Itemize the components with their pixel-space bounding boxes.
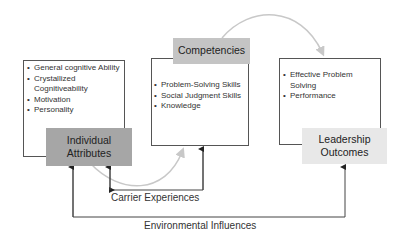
competencies-title: Competencies — [173, 38, 250, 64]
outcomes-item: Effective Problem Solving — [283, 70, 378, 91]
outcomes-list: Effective Problem Solving Performance — [283, 70, 378, 102]
outcomes-item: Performance — [283, 91, 378, 102]
carrier-experiences-label: Carrier Experiences — [111, 192, 199, 203]
environmental-influences-label: Environmental Influences — [144, 220, 256, 231]
attributes-item: Motivation — [27, 95, 122, 106]
attributes-title: Individual Attributes — [46, 128, 132, 166]
competencies-item: Social Judgment Skills — [154, 91, 254, 102]
attributes-list: General cognitive Ability Crystallized C… — [27, 63, 122, 116]
competencies-list: Problem-Solving Skills Social Judgment S… — [154, 80, 254, 112]
outcomes-title: Leadership Outcomes — [302, 128, 387, 164]
competencies-item: Knowledge — [154, 101, 254, 112]
attributes-item: General cognitive Ability — [27, 63, 122, 74]
attributes-item: Personality — [27, 105, 122, 116]
attributes-item: Crystallized Cognitiveability — [27, 74, 122, 95]
competencies-item: Problem-Solving Skills — [154, 80, 254, 91]
